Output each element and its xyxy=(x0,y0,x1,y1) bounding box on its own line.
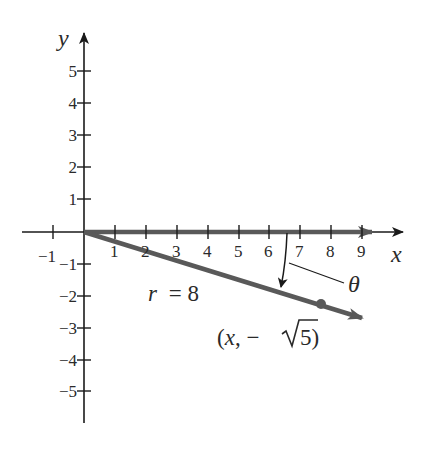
y-tick-label: 4 xyxy=(69,94,78,113)
radius-var: r xyxy=(148,281,158,306)
y-tick-label: −4 xyxy=(59,351,78,370)
y-tick-label: −2 xyxy=(59,287,77,306)
y-tick-label: −3 xyxy=(59,319,77,338)
point-label-x: x xyxy=(224,325,236,350)
x-tick-label: 3 xyxy=(172,242,181,261)
y-tick-label: −1 xyxy=(59,255,77,274)
svg-text:(x, −: (x, − xyxy=(217,325,259,350)
x-tick-label: 7 xyxy=(295,242,304,261)
x-tick-label: 8 xyxy=(326,242,335,261)
point-label-radicand: 5 xyxy=(300,325,312,350)
point-label-mid: , − xyxy=(235,325,259,350)
coordinate-diagram: y x −1 1 2 3 4 5 6 7 8 9 5 4 3 2 1 −1 −2… xyxy=(0,0,430,461)
x-tick-label: 4 xyxy=(203,242,212,261)
y-tick-label: 1 xyxy=(69,190,78,209)
x-tick-label: 6 xyxy=(264,242,273,261)
radius-label: r = 8 xyxy=(148,281,199,306)
y-tick-label: 2 xyxy=(69,158,78,177)
x-tick-label: 1 xyxy=(110,242,119,261)
x-tick-label: 9 xyxy=(357,242,366,261)
angle-label: θ xyxy=(348,271,360,297)
x-tick-label: −1 xyxy=(38,247,56,266)
x-axis-label: x xyxy=(390,241,402,267)
point-label-close: ) xyxy=(312,325,320,350)
theta-leader-line xyxy=(289,263,344,283)
y-tick-label: 5 xyxy=(69,62,78,81)
point-label: (x, − 5) xyxy=(217,320,319,350)
point-marker xyxy=(316,299,326,309)
angle-theta-arc xyxy=(281,233,287,287)
svg-text:5): 5) xyxy=(300,325,319,350)
y-axis-label: y xyxy=(56,25,69,51)
point-label-open: ( xyxy=(217,325,225,350)
x-tick-label: 5 xyxy=(234,242,243,261)
y-tick-label: −5 xyxy=(59,382,77,401)
radius-value: = 8 xyxy=(169,281,199,306)
x-tick-label: 2 xyxy=(141,242,150,261)
y-tick-label: 3 xyxy=(69,126,78,145)
